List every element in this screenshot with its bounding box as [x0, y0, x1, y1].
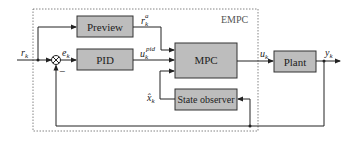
- svg-text:State observer: State observer: [178, 94, 236, 105]
- plant-block: Plant: [274, 51, 316, 72]
- preview-block: Preview: [77, 16, 133, 37]
- state-estimate-line: [160, 71, 175, 99]
- empc-label: EMPC: [221, 14, 249, 25]
- signal-u-k-pid: ukpid: [140, 45, 156, 61]
- state-observer-block: State observer: [175, 89, 237, 110]
- signal-y-k: yk: [324, 47, 333, 60]
- signal-e-k: ek: [62, 47, 70, 60]
- signal-x-hat-k: x̂k: [146, 92, 155, 105]
- svg-text:Preview: Preview: [87, 21, 123, 33]
- mpc-block: MPC: [175, 43, 237, 78]
- junction-minus-sign: −: [59, 65, 65, 77]
- block-diagram: EMPC Preview PID MPC State observer Plan…: [0, 0, 357, 141]
- signal-r-k: rk: [21, 47, 29, 60]
- svg-text:MPC: MPC: [194, 54, 217, 66]
- observer-input-line: [238, 99, 250, 126]
- svg-text:PID: PID: [96, 54, 114, 66]
- preview-input-line: [38, 27, 76, 60]
- svg-text:Plant: Plant: [284, 56, 307, 68]
- pid-block: PID: [77, 49, 133, 70]
- summing-junction: [52, 56, 61, 65]
- signal-r-k-a: rka: [141, 12, 149, 28]
- signal-u-k: uk: [260, 48, 269, 61]
